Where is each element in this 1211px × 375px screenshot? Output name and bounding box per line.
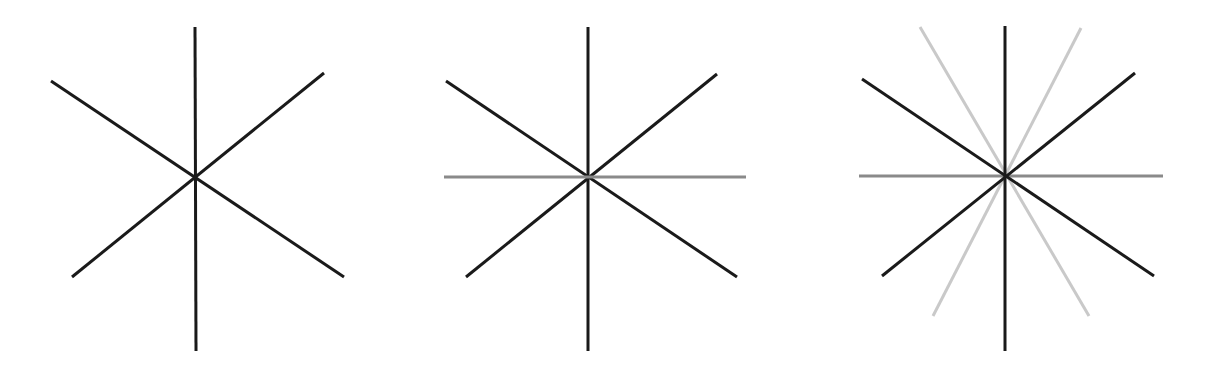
ray-line-primary <box>51 81 344 277</box>
panel-eight-ray-star <box>444 27 746 351</box>
ray-line-primary <box>446 81 737 277</box>
ray-line-primary <box>195 27 196 351</box>
ray-line-primary <box>72 73 324 277</box>
star-diagrams-canvas <box>0 0 1211 375</box>
ray-line-tertiary <box>933 28 1081 316</box>
panel-six-ray-star <box>51 27 344 351</box>
panel-twelve-ray-star <box>859 26 1163 351</box>
